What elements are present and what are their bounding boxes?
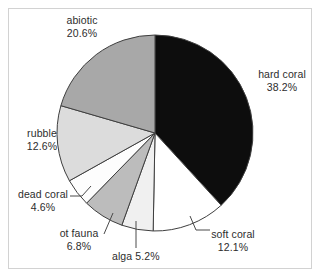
slice-label-ot-fauna-name: ot fauna [60,227,99,239]
slice-label-rubble-name: rubble [27,127,57,139]
pie-chart-figure: abiotic 20.6% hard coral 38.2% rubble 12… [0,0,321,277]
slice-label-abiotic-value: 20.6% [46,27,118,40]
slice-label-rubble-value: 12.6% [12,140,72,153]
pie-slice-group [57,35,253,231]
slice-label-dead-coral: dead coral 4.6% [6,188,80,214]
slice-label-hard-coral-name: hard coral [258,68,306,80]
slice-label-soft-coral: soft coral 12.1% [196,228,270,254]
slice-label-soft-coral-name: soft coral [211,228,255,240]
slice-label-abiotic: abiotic 20.6% [46,14,118,40]
slice-label-alga-name: alga 5.2% [112,250,160,262]
slice-label-hard-coral: hard coral 38.2% [248,68,316,94]
slice-label-soft-coral-value: 12.1% [196,241,270,254]
slice-label-hard-coral-value: 38.2% [248,81,316,94]
slice-label-alga: alga 5.2% [112,250,192,263]
slice-label-dead-coral-value: 4.6% [6,201,80,214]
slice-label-rubble: rubble 12.6% [12,127,72,153]
slice-label-ot-fauna: ot fauna 6.8% [48,227,110,253]
slice-label-abiotic-name: abiotic [66,14,97,26]
slice-label-ot-fauna-value: 6.8% [48,240,110,253]
slice-label-dead-coral-name: dead coral [18,188,68,200]
